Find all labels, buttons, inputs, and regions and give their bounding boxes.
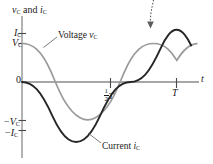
x-tick-label-period: T (172, 88, 178, 98)
current-curve-label: Current iC (102, 142, 140, 152)
voltage-curve-label-text: Voltage (58, 30, 89, 40)
x-tick-label-half-period: 12T (104, 88, 114, 103)
x-axis-label: t (201, 74, 204, 84)
dotted-arrow-head (147, 22, 154, 29)
origin-label: 0 (16, 75, 21, 85)
capacitor-waveform-figure: vC and iC IC VC 0 −VC −IC 12T T t Voltag… (0, 0, 213, 164)
voltage-curve-label: Voltage vC (58, 31, 97, 41)
y-axis-label: vC and iC (12, 5, 47, 16)
waveform-plot (0, 0, 213, 164)
y-tick-label-neg-VC: −VC (4, 117, 20, 128)
current-leader-line (88, 133, 101, 143)
voltage-leader-line (44, 37, 58, 48)
y-tick-label-VC: VC (12, 38, 22, 49)
dotted-arrow-line (150, 0, 155, 22)
current-curve-label-text: Current (102, 141, 133, 151)
y-tick-label-neg-IC: −IC (5, 128, 18, 139)
